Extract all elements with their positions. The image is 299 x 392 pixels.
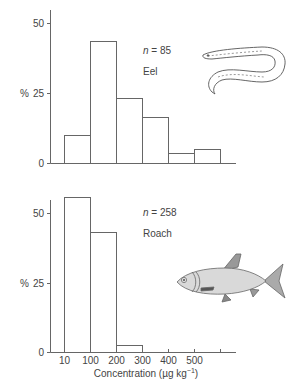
x-tick-500: 500 — [186, 355, 203, 366]
bar-eel-5 — [169, 154, 195, 164]
x-axis-title: Concentration (µg kg−1) — [94, 367, 198, 379]
x-tick-100: 100 — [82, 355, 99, 366]
eel-n-label: n = 85 — [143, 45, 172, 56]
x-tick-10: 10 — [59, 355, 71, 366]
y-tick-0: 0 — [38, 158, 44, 169]
x-tick-200: 200 — [108, 355, 125, 366]
bar-roach-1 — [65, 198, 91, 353]
figure: 50 25 0 % n = 85 Eel 50 25 0 % 10 100 20… — [0, 0, 299, 392]
y-tick-25: 25 — [33, 88, 45, 99]
y-axis-label: % — [20, 88, 29, 99]
roach-fish-drawing — [177, 254, 285, 302]
bar-roach-2 — [91, 233, 117, 353]
y-tick-50: 50 — [33, 18, 45, 29]
y-tick-25: 25 — [33, 278, 45, 289]
x-tick-300: 300 — [134, 355, 151, 366]
bar-eel-2 — [91, 42, 117, 164]
bar-eel-6 — [195, 150, 221, 164]
eel-species-label: Eel — [143, 66, 157, 77]
eel-drawing — [203, 47, 285, 94]
bar-eel-1 — [65, 136, 91, 164]
y-tick-50: 50 — [33, 208, 45, 219]
y-axis-label: % — [20, 278, 29, 289]
roach-species-label: Roach — [143, 228, 172, 239]
eel-histogram — [47, 10, 236, 164]
x-tick-400: 400 — [160, 355, 177, 366]
bar-eel-3 — [117, 99, 143, 164]
y-tick-0: 0 — [38, 347, 44, 358]
bar-eel-4 — [143, 118, 169, 164]
roach-n-label: n = 258 — [143, 207, 177, 218]
bar-roach-3 — [117, 346, 143, 353]
